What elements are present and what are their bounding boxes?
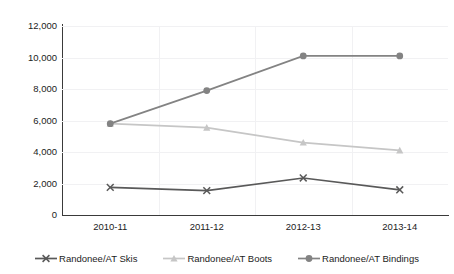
chart-legend: Randonee/AT SkisRandonee/AT BootsRandone… <box>0 249 454 267</box>
x-axis-line <box>62 215 449 216</box>
series-randonee-at-bindings <box>107 53 403 128</box>
data-point-circle-marker <box>300 53 307 60</box>
y-axis-tick-labels: 02,0004,0006,0008,00010,00012,000 <box>0 26 57 215</box>
x-axis-tick-label: 2013-14 <box>382 221 417 232</box>
x-axis-tick-label: 2010-11 <box>93 221 127 232</box>
y-axis-tick-label: 8,000 <box>3 84 57 94</box>
legend-item[interactable]: Randonee/AT Boots <box>163 253 272 264</box>
legend-circle-icon <box>298 253 320 264</box>
y-axis-tick-label: 4,000 <box>3 147 57 157</box>
y-axis-tick-label: 6,000 <box>3 116 57 126</box>
x-axis-tick-label: 2011-12 <box>190 221 224 232</box>
legend-x-icon <box>35 253 57 264</box>
data-point-circle-marker <box>203 87 210 94</box>
data-point-circle-marker <box>107 120 114 127</box>
line-chart: 02,0004,0006,0008,00010,00012,000 2010-1… <box>0 0 454 274</box>
x-axis-tick-labels: 2010-112011-122012-132013-14 <box>62 221 448 237</box>
legend-item[interactable]: Randonee/AT Skis <box>35 253 137 264</box>
legend-item[interactable]: Randonee/AT Bindings <box>298 253 419 264</box>
y-axis-tick-label: 10,000 <box>3 53 57 63</box>
series-line <box>110 56 400 124</box>
clipped-chart-title <box>0 0 454 6</box>
series-line <box>110 178 400 191</box>
series-line <box>110 124 400 151</box>
series-layer <box>62 26 448 215</box>
legend-label: Randonee/AT Boots <box>187 253 272 264</box>
series-randonee-at-boots <box>107 120 404 153</box>
data-point-circle-marker <box>306 255 313 262</box>
legend-triangle-icon <box>163 253 185 264</box>
x-axis-tick-label: 2012-13 <box>286 221 321 232</box>
legend-label: Randonee/AT Bindings <box>322 253 419 264</box>
data-point-circle-marker <box>396 53 403 60</box>
legend-label: Randonee/AT Skis <box>59 253 137 264</box>
y-axis-tick-label: 0 <box>3 210 57 220</box>
series-randonee-at-skis <box>107 175 403 194</box>
y-axis-tick-label: 12,000 <box>3 21 57 31</box>
y-axis-tick-label: 2,000 <box>3 179 57 189</box>
plot-area <box>62 26 448 215</box>
